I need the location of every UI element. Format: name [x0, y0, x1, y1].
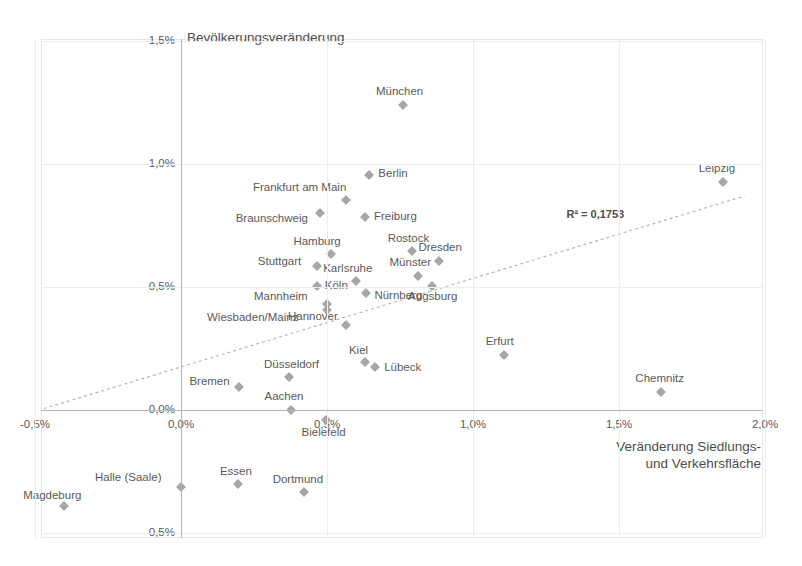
data-point-label: Chemnitz [635, 372, 684, 384]
data-point-label: Bremen [189, 375, 229, 387]
data-point-label: Erfurt [486, 335, 514, 347]
data-point-label: Lübeck [384, 361, 421, 373]
data-point-label: Karlsruhe [323, 262, 372, 274]
data-point-label: Hannover [288, 310, 338, 322]
y-tick-label: 0,0% [129, 403, 175, 415]
data-point-label: Magdeburg [23, 489, 81, 501]
y-axis-line [181, 39, 182, 538]
gridline-horizontal [41, 164, 763, 165]
y-tick-label: -0,5% [129, 526, 175, 538]
data-point-label: Dortmund [273, 473, 324, 485]
data-point-label: Freiburg [374, 210, 417, 222]
data-point-label: Kiel [349, 344, 368, 356]
gridline-vertical [619, 39, 620, 538]
data-point-label: Düsseldorf [264, 358, 319, 370]
data-point-label: Halle (Saale) [95, 471, 161, 483]
data-point-label: Wiesbaden/Mainz [207, 311, 298, 323]
r-squared-annotation: R² = 0,1753 [566, 208, 624, 220]
gridline-horizontal [41, 287, 763, 288]
data-point-label: Hamburg [293, 235, 340, 247]
y-axis-title: Bevölkerungsveränderung [187, 30, 345, 45]
gridline-horizontal [41, 41, 763, 42]
data-point-label: Bielefeld [302, 426, 346, 438]
data-point-label: Aachen [265, 390, 304, 402]
gridline-vertical [35, 39, 36, 538]
y-tick-label: 1,0% [129, 157, 175, 169]
data-point-label: Dresden [418, 241, 461, 253]
data-point-label: Frankfurt am Main [253, 181, 346, 193]
data-point-label: Berlin [378, 167, 407, 179]
data-point-label: Stuttgart [258, 255, 301, 267]
data-point-label: Münster [390, 256, 432, 268]
gridline-vertical [327, 39, 328, 538]
x-axis-title: Veränderung Siedlungs- und Verkehrsfläch… [503, 438, 761, 472]
data-point-label: München [376, 85, 423, 97]
data-point-label: Köln [325, 279, 348, 291]
data-point-label: Braunschweig [236, 212, 308, 224]
y-tick-label: 0,5% [129, 280, 175, 292]
data-point-label: Augsburg [408, 290, 457, 302]
gridline-horizontal [41, 533, 763, 534]
data-point-label: Mannheim [254, 290, 308, 302]
scatter-chart: Bevölkerungsveränderung Veränderung Sied… [0, 0, 802, 566]
data-point-label: Essen [220, 465, 252, 477]
x-axis-line [41, 410, 763, 411]
gridline-vertical [765, 39, 766, 538]
y-tick-label: 1,5% [129, 34, 175, 46]
gridline-vertical [473, 39, 474, 538]
